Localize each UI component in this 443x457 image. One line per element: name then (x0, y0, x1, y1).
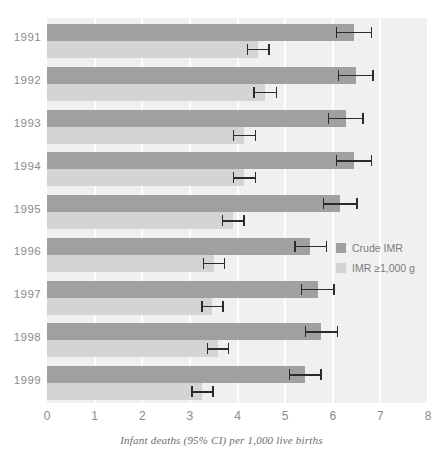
error-bar-crude-imr-1993 (328, 113, 364, 124)
error-bar-crude-imr-1995 (323, 198, 358, 209)
legend-item-imr-1000g[interactable]: IMR ≥1,000 g (336, 259, 440, 276)
error-bar-imr-1000g-1995 (222, 215, 245, 226)
error-bar-crude-imr-1999 (289, 369, 322, 380)
bar-imr-1000g-1995[interactable] (47, 212, 233, 229)
bar-imr-1000g-1996[interactable] (47, 255, 214, 272)
bar-imr-1000g-1993[interactable] (47, 127, 244, 144)
error-bar-imr-1000g-1992 (253, 87, 277, 98)
y-axis-label-1998: 1998 (0, 331, 41, 343)
error-bar-imr-1000g-1994 (233, 172, 256, 183)
y-axis-label-1996: 1996 (0, 245, 41, 257)
error-bar-imr-1000g-1999 (191, 386, 213, 397)
bar-imr-1000g-1997[interactable] (47, 298, 212, 315)
plot-area (47, 18, 428, 403)
error-bar-imr-1000g-1993 (233, 130, 256, 141)
bar-row-1994 (47, 149, 428, 191)
bar-row-1992 (47, 64, 428, 106)
bar-crude-imr-1995[interactable] (47, 195, 340, 212)
bar-imr-1000g-1994[interactable] (47, 169, 244, 186)
legend-label-imr-1000g: IMR ≥1,000 g (352, 262, 415, 274)
error-bar-imr-1000g-1998 (207, 343, 230, 354)
bar-crude-imr-1994[interactable] (47, 152, 354, 169)
x-tick-label-6: 6 (318, 409, 348, 423)
bar-row-1999 (47, 363, 428, 405)
error-bar-crude-imr-1998 (305, 326, 339, 337)
x-axis-title: Infant deaths (95% CI) per 1,000 live bi… (0, 434, 443, 446)
bar-crude-imr-1996[interactable] (47, 238, 310, 255)
error-bar-crude-imr-1996 (294, 241, 327, 252)
error-bar-crude-imr-1992 (338, 70, 374, 81)
error-bar-crude-imr-1994 (336, 155, 372, 166)
bar-row-1991 (47, 21, 428, 63)
x-tick-label-7: 7 (365, 409, 395, 423)
chart-legend: Crude IMR IMR ≥1,000 g (336, 239, 440, 279)
bar-crude-imr-1993[interactable] (47, 110, 346, 127)
x-tick-label-5: 5 (270, 409, 300, 423)
x-tick-label-3: 3 (175, 409, 205, 423)
error-bar-imr-1000g-1997 (201, 301, 223, 312)
legend-swatch-imr-1000g (336, 263, 346, 273)
y-axis-label-1991: 1991 (0, 31, 41, 43)
error-bar-imr-1000g-1991 (247, 44, 270, 55)
y-axis-label-1994: 1994 (0, 160, 41, 172)
y-axis-label-1993: 1993 (0, 117, 41, 129)
bar-row-1993 (47, 107, 428, 149)
bar-crude-imr-1997[interactable] (47, 281, 318, 298)
legend-label-crude-imr: Crude IMR (352, 242, 403, 254)
bar-row-1998 (47, 320, 428, 362)
bar-crude-imr-1998[interactable] (47, 323, 321, 340)
bar-crude-imr-1999[interactable] (47, 366, 305, 383)
legend-item-crude-imr[interactable]: Crude IMR (336, 239, 440, 256)
y-axis-label-1995: 1995 (0, 203, 41, 215)
x-tick-label-0: 0 (32, 409, 62, 423)
x-tick-label-4: 4 (223, 409, 253, 423)
bar-imr-1000g-1992[interactable] (47, 84, 265, 101)
x-tick-label-1: 1 (80, 409, 110, 423)
error-bar-crude-imr-1991 (336, 27, 372, 38)
x-tick-label-8: 8 (413, 409, 443, 423)
y-axis-label-1992: 1992 (0, 74, 41, 86)
bar-imr-1000g-1991[interactable] (47, 41, 258, 58)
bar-imr-1000g-1998[interactable] (47, 340, 218, 357)
bar-crude-imr-1992[interactable] (47, 67, 356, 84)
bar-crude-imr-1991[interactable] (47, 24, 354, 41)
bar-imr-1000g-1999[interactable] (47, 383, 202, 400)
error-bar-crude-imr-1997 (301, 284, 335, 295)
y-axis-label-1997: 1997 (0, 288, 41, 300)
legend-swatch-crude-imr (336, 243, 346, 253)
x-tick-label-2: 2 (127, 409, 157, 423)
bar-row-1995 (47, 192, 428, 234)
error-bar-imr-1000g-1996 (203, 258, 225, 269)
y-axis-label-1999: 1999 (0, 374, 41, 386)
bar-row-1997 (47, 278, 428, 320)
chart-figure: 199119921993199419951996199719981999 012… (0, 0, 443, 457)
